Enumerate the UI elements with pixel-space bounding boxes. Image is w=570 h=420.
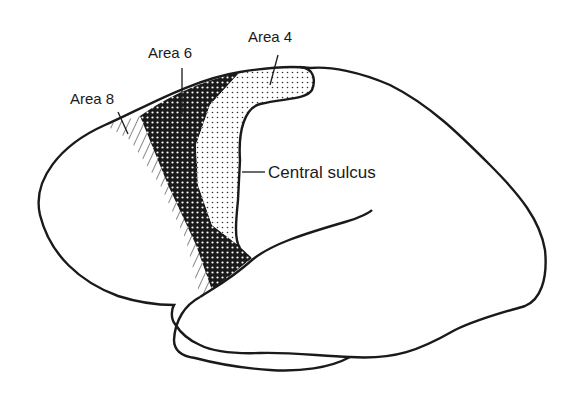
temporal-lobe-front: [174, 297, 350, 370]
brain-diagram: Area 8 Area 6 Area 4 Central sulcus: [0, 0, 570, 420]
central-sulcus-label: Central sulcus: [268, 163, 376, 182]
area8-label: Area 8: [70, 90, 114, 107]
area4-label: Area 4: [248, 28, 292, 45]
hemisphere-outline: [39, 67, 546, 357]
area6-label: Area 6: [148, 44, 192, 61]
